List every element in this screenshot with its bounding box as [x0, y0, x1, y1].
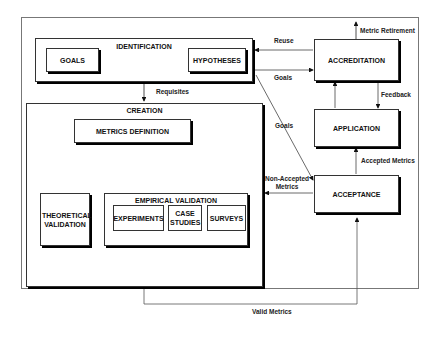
edge-label-metric-retirement: Metric Retirement — [360, 27, 415, 35]
non-accepted-line2: Metrics — [265, 183, 309, 191]
non-accepted-line1: Non-Accepted — [265, 175, 309, 183]
application-label: APPLICATION — [333, 124, 380, 133]
edge-label-reuse: Reuse — [274, 37, 294, 45]
goals-label: GOALS — [60, 56, 85, 65]
hypotheses-label: HYPOTHESES — [193, 56, 241, 65]
edge-label-requisites: Requisites — [156, 88, 189, 96]
edge-label-accepted-metrics: Accepted Metrics — [361, 157, 415, 165]
experiments-node: EXPERIMENTS — [113, 205, 164, 231]
accreditation-node: ACCREDITATION — [314, 39, 399, 81]
accreditation-label: ACCREDITATION — [328, 56, 385, 65]
creation-label: CREATION — [27, 106, 262, 115]
hypotheses-node: HYPOTHESES — [188, 48, 246, 72]
edge-label-goals-accreditation: Goals — [274, 74, 292, 82]
case-studies-node: CASE STUDIES — [168, 205, 202, 231]
edge-label-goals-acceptance: Goals — [275, 122, 293, 130]
edge-label-valid-metrics: Valid Metrics — [252, 308, 292, 316]
theoretical-validation-label: THEORETICAL VALIDATION — [42, 211, 88, 229]
metrics-definition-node: METRICS DEFINITION — [74, 119, 191, 143]
goals-node: GOALS — [46, 48, 99, 72]
surveys-label: SURVEYS — [210, 214, 243, 223]
acceptance-node: ACCEPTANCE — [314, 175, 399, 213]
case-studies-label: CASE STUDIES — [170, 209, 200, 227]
experiments-label: EXPERIMENTS — [113, 214, 163, 223]
empirical-validation-label: EMPIRICAL VALIDATION — [105, 196, 247, 205]
acceptance-label: ACCEPTANCE — [332, 190, 380, 199]
metrics-definition-label: METRICS DEFINITION — [96, 127, 169, 136]
surveys-node: SURVEYS — [207, 205, 246, 231]
edge-label-feedback: Feedback — [381, 91, 411, 99]
theoretical-validation-node: THEORETICAL VALIDATION — [40, 193, 90, 246]
edge-label-non-accepted-metrics: Non-Accepted Metrics — [265, 175, 309, 191]
application-node: APPLICATION — [314, 109, 399, 147]
